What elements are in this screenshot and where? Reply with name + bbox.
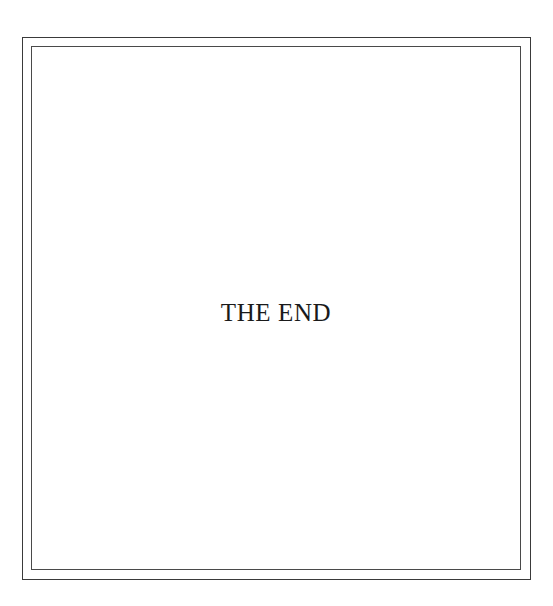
page-content-area: THE END <box>32 47 520 569</box>
page-canvas: THE END <box>0 0 553 606</box>
page-border-inner: THE END <box>31 46 521 570</box>
the-end-text: THE END <box>32 300 520 325</box>
page-border-outer: THE END <box>22 37 531 580</box>
